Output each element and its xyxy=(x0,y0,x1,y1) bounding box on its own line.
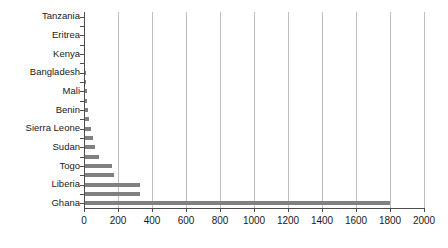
bar-row xyxy=(84,201,424,205)
x-axis-label: 1800 xyxy=(379,215,401,227)
x-axis-tick xyxy=(288,208,289,212)
x-axis-tick xyxy=(424,208,425,212)
x-axis-label: 0 xyxy=(81,215,87,227)
y-axis-label: Liberia xyxy=(2,179,80,189)
x-axis-label: 1200 xyxy=(277,215,299,227)
x-axis-label: 800 xyxy=(212,215,229,227)
bar-chart: TanzaniaEritreaKenyaBangladeshMaliBeninS… xyxy=(0,0,448,248)
bar-row xyxy=(84,108,424,112)
y-axis-label: Benin xyxy=(2,105,80,115)
bar-row xyxy=(84,173,424,177)
y-axis-label: Kenya xyxy=(2,49,80,59)
y-axis-label: Bangladesh xyxy=(2,67,80,77)
y-axis-labels: TanzaniaEritreaKenyaBangladeshMaliBeninS… xyxy=(0,0,80,248)
bar-row xyxy=(84,164,424,168)
bar-row xyxy=(84,183,424,187)
bar xyxy=(84,183,140,187)
y-axis-label: Sierra Leone xyxy=(2,123,80,133)
x-axis-tick xyxy=(356,208,357,212)
bar-row xyxy=(84,145,424,149)
y-axis-label: Sudan xyxy=(2,142,80,152)
y-axis-label: Mali xyxy=(2,86,80,96)
y-axis-label: Togo xyxy=(2,161,80,171)
y-axis-tick xyxy=(80,17,84,18)
x-axis-tick xyxy=(84,208,85,212)
y-axis-tick xyxy=(80,91,84,92)
bar-row xyxy=(84,136,424,140)
y-axis-tick xyxy=(80,63,84,64)
bar-row xyxy=(84,127,424,131)
y-axis-tick xyxy=(80,157,84,158)
bar xyxy=(84,164,112,168)
bar-row xyxy=(84,33,424,37)
y-axis-tick xyxy=(80,54,84,55)
y-axis-label: Ghana xyxy=(2,198,80,208)
y-axis-tick xyxy=(80,35,84,36)
y-axis-tick xyxy=(80,45,84,46)
bar-row xyxy=(84,117,424,121)
x-axis-label: 1600 xyxy=(345,215,367,227)
bar xyxy=(84,155,99,159)
x-axis-tick xyxy=(254,208,255,212)
bar xyxy=(84,136,93,140)
x-axis-label: 600 xyxy=(178,215,195,227)
y-axis-tick xyxy=(80,138,84,139)
y-axis-tick xyxy=(80,147,84,148)
bar xyxy=(84,192,140,196)
x-axis-label: 200 xyxy=(110,215,127,227)
bar-row xyxy=(84,89,424,93)
bar xyxy=(84,145,95,149)
plot-area xyxy=(84,12,424,208)
x-axis-tick xyxy=(152,208,153,212)
y-axis-tick xyxy=(80,101,84,102)
x-axis-label: 1000 xyxy=(243,215,265,227)
bar-row xyxy=(84,71,424,75)
bar-row xyxy=(84,61,424,65)
x-axis-label: 2000 xyxy=(413,215,435,227)
y-axis-tick xyxy=(80,82,84,83)
y-axis-tick xyxy=(80,110,84,111)
y-axis-tick xyxy=(80,185,84,186)
y-axis-tick xyxy=(80,203,84,204)
gridline xyxy=(424,12,425,208)
bar-row xyxy=(84,24,424,28)
y-axis-tick xyxy=(80,26,84,27)
x-axis-tick xyxy=(322,208,323,212)
y-axis-label: Eritrea xyxy=(2,30,80,40)
bar-row xyxy=(84,99,424,103)
bar xyxy=(84,127,91,131)
bar-row xyxy=(84,52,424,56)
bar-row xyxy=(84,155,424,159)
y-axis-label: Tanzania xyxy=(2,11,80,21)
bar xyxy=(84,201,390,205)
y-axis-tick xyxy=(80,129,84,130)
x-axis-tick xyxy=(220,208,221,212)
y-axis-line xyxy=(84,12,85,209)
x-axis-tick xyxy=(118,208,119,212)
x-axis-tick xyxy=(186,208,187,212)
y-axis-tick xyxy=(80,166,84,167)
y-axis-tick xyxy=(80,175,84,176)
bar-row xyxy=(84,43,424,47)
x-axis-tick xyxy=(390,208,391,212)
y-axis-tick xyxy=(80,119,84,120)
x-axis-label: 400 xyxy=(144,215,161,227)
bar-row xyxy=(84,80,424,84)
bar xyxy=(84,173,114,177)
bar-row xyxy=(84,15,424,19)
bar-row xyxy=(84,192,424,196)
y-axis-tick xyxy=(80,73,84,74)
y-axis-tick xyxy=(80,194,84,195)
x-axis-label: 1400 xyxy=(311,215,333,227)
